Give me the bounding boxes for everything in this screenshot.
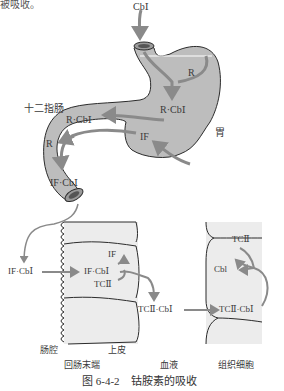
label-terminal-ileum: 回肠末端 xyxy=(64,361,100,370)
label-if-cbl-lumen: IF·CbⅠ xyxy=(8,267,33,276)
top-text-fragment: 被吸收。 xyxy=(0,0,40,11)
label-tcii-cbl-tissue: TCⅡ·CbⅠ xyxy=(219,305,254,314)
label-blood: 血液 xyxy=(160,361,178,370)
label-r-cbl-stomach: R·CbⅠ xyxy=(160,105,186,115)
label-cbl-tissue: Cbl xyxy=(214,265,227,274)
label-r-stomach: R xyxy=(188,68,195,78)
label-if-cell: IF xyxy=(108,250,116,259)
label-tcii-cell: TCⅡ xyxy=(94,280,112,289)
label-r-duodenum: R xyxy=(46,139,53,149)
cobalamin-absorption-figure: 被吸收。 CbⅠ R R·CbⅠ IF 胃 十二指肠 R·CbⅠ R IF·Cb… xyxy=(0,0,284,391)
microvilli-border xyxy=(61,222,64,342)
diagram-canvas xyxy=(0,0,284,391)
label-r-cbl-duodenum: R·CbⅠ xyxy=(66,115,92,125)
label-if-cbl-duodenum: IF·CbⅠ xyxy=(50,178,78,188)
label-lumen: 肠腔 xyxy=(40,346,58,355)
figure-caption: 图 6-4-2 钴胺素的吸收 xyxy=(82,376,197,387)
label-tcii-tissue: TCⅡ xyxy=(232,235,250,244)
label-if-stomach: IF xyxy=(140,132,149,142)
label-epithelium: 上皮 xyxy=(108,346,126,355)
label-tcii-cbl-blood: TCⅡ·CbⅠ xyxy=(138,305,173,314)
label-duodenum: 十二指肠 xyxy=(24,104,64,114)
label-cbl-input: CbⅠ xyxy=(133,2,149,12)
label-tissue-cells: 组织细胞 xyxy=(218,361,254,370)
label-if-cbl-cell: IF·CbⅠ xyxy=(84,267,109,276)
label-stomach: 胃 xyxy=(215,128,225,138)
